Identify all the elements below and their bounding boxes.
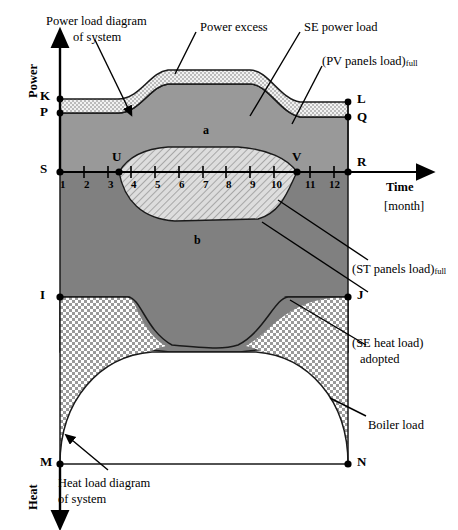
annotation-heat-load-diagram-line2: of system bbox=[58, 492, 106, 506]
region-label-a: a bbox=[203, 124, 209, 138]
leader-power-load-diagram bbox=[95, 40, 128, 108]
tick-label-6: 6 bbox=[179, 178, 185, 191]
white-dome-region bbox=[60, 352, 348, 464]
region-label-b: b bbox=[194, 234, 201, 248]
point-label-J: J bbox=[357, 288, 364, 303]
point-label-L: L bbox=[357, 92, 366, 107]
annotation-power-load-diagram-line1: Power load diagram bbox=[46, 14, 147, 28]
annotation-power-excess: Power excess bbox=[200, 20, 268, 34]
point-label-N: N bbox=[357, 455, 366, 470]
annotation-se-power-load: SE power load bbox=[304, 20, 378, 34]
point-label-P: P bbox=[40, 105, 48, 120]
tick-label-1: 1 bbox=[60, 178, 66, 191]
tick-label-2: 2 bbox=[84, 178, 90, 191]
annotation-pv-panels-load-sub: full bbox=[406, 58, 418, 68]
point-label-V: V bbox=[292, 150, 301, 165]
tick-label-11: 11 bbox=[305, 178, 315, 191]
figure-canvas: Power Heat Time [month] 1 2 3 4 5 6 7 8 … bbox=[0, 0, 458, 530]
power-axis-label: Power bbox=[26, 64, 40, 98]
point-label-K: K bbox=[40, 89, 50, 104]
tick-label-9: 9 bbox=[250, 178, 256, 191]
annotation-st-panels-load-sub: full bbox=[434, 266, 446, 276]
point-label-I: I bbox=[40, 288, 45, 303]
tick-label-3: 3 bbox=[108, 178, 114, 191]
tick-label-12: 12 bbox=[329, 178, 340, 191]
point-label-R: R bbox=[357, 155, 366, 170]
annotation-st-panels-load-text: (ST panels load) bbox=[352, 262, 434, 276]
annotation-se-heat-load-line1: (SE heat load) bbox=[352, 336, 424, 350]
point-label-S: S bbox=[40, 162, 47, 177]
annotation-pv-panels-load-text: (PV panels load) bbox=[322, 54, 406, 68]
point-label-U: U bbox=[112, 150, 121, 165]
tick-label-5: 5 bbox=[155, 178, 161, 191]
annotation-power-load-diagram-line2: of system bbox=[73, 30, 121, 44]
tick-label-4: 4 bbox=[131, 178, 137, 191]
point-label-Q: Q bbox=[357, 110, 367, 125]
annotation-se-heat-load-line2: adopted bbox=[360, 352, 400, 366]
heat-axis-label: Heat bbox=[26, 484, 40, 510]
tick-label-7: 7 bbox=[203, 178, 209, 191]
annotation-boiler-load: Boiler load bbox=[368, 418, 424, 432]
point-label-M: M bbox=[40, 455, 52, 470]
tick-label-10: 10 bbox=[271, 178, 282, 191]
time-axis-label: Time bbox=[386, 180, 414, 194]
time-axis-unit: [month] bbox=[384, 199, 424, 213]
annotation-heat-load-diagram-line1: Heat load diagram bbox=[58, 476, 150, 490]
tick-label-8: 8 bbox=[226, 178, 232, 191]
leader-power-excess bbox=[175, 32, 196, 74]
annotation-st-panels-load: (ST panels load)full bbox=[352, 262, 446, 277]
annotation-pv-panels-load: (PV panels load)full bbox=[322, 54, 418, 69]
